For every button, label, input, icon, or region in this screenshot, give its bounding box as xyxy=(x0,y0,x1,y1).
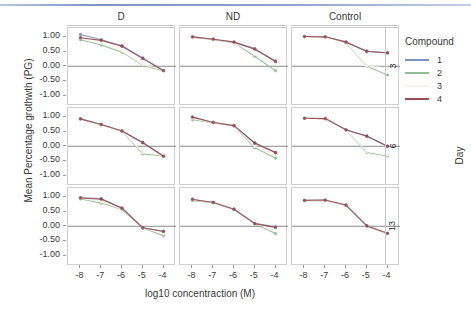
y-tick-label: 0.00 xyxy=(24,221,60,230)
x-tick-label: -5 xyxy=(135,271,149,280)
x-tick-mark xyxy=(163,265,164,268)
y-tick-mark xyxy=(63,145,66,146)
y-tick-mark xyxy=(63,211,66,212)
x-tick-mark xyxy=(254,265,255,268)
panel-d-day-6 xyxy=(67,107,175,185)
legend-item-2[interactable]: 2 xyxy=(405,66,471,79)
legend-label-3: 3 xyxy=(437,81,442,91)
legend: Compound 1234 xyxy=(405,36,471,105)
y-tick-mark xyxy=(63,95,66,96)
y-tick-mark xyxy=(63,65,66,66)
x-tick-mark xyxy=(121,265,122,268)
x-tick-label: -8 xyxy=(72,271,86,280)
x-tick-mark xyxy=(324,265,325,268)
x-tick-label: -7 xyxy=(205,271,219,280)
y-tick-mark xyxy=(63,36,66,37)
x-tick-label: -6 xyxy=(114,271,128,280)
panel-control-day-3 xyxy=(291,27,399,105)
y-axis-title: Mean Percentage grothwth (PG) xyxy=(23,41,34,221)
y-tick-mark xyxy=(63,131,66,132)
legend-label-4: 4 xyxy=(437,94,442,104)
legend-swatch-2 xyxy=(405,72,429,74)
x-tick-mark xyxy=(142,265,143,268)
x-tick-mark xyxy=(191,265,192,268)
row-rule-day-3 xyxy=(385,27,386,105)
x-tick-label: -8 xyxy=(184,271,198,280)
legend-item-1[interactable]: 1 xyxy=(405,53,471,66)
row-strip-day-3-label: 3 xyxy=(387,63,397,68)
y-tick-mark xyxy=(63,51,66,52)
legend-swatch-3 xyxy=(405,85,429,87)
column-strip-control: Control xyxy=(291,10,399,24)
y-tick-mark xyxy=(63,255,66,256)
x-tick-label: -6 xyxy=(338,271,352,280)
x-tick-mark xyxy=(387,265,388,268)
y-tick-label: 1.00 xyxy=(24,31,60,40)
x-tick-label: -4 xyxy=(380,271,394,280)
faceted-dose-response-chart: D ND Control 1.000.500.00-0.50-1.001.000… xyxy=(0,0,471,310)
row-group-title-text: Day xyxy=(454,147,465,165)
panel-control-day-6 xyxy=(291,107,399,185)
legend-swatch-4 xyxy=(405,98,429,100)
legend-items: 1234 xyxy=(405,53,471,105)
x-tick-label: -5 xyxy=(359,271,373,280)
row-strip-day-6-label: 6 xyxy=(387,143,397,148)
column-rule-d xyxy=(67,25,175,26)
legend-label-2: 2 xyxy=(437,68,442,78)
x-tick-label: -7 xyxy=(317,271,331,280)
x-tick-label: -4 xyxy=(268,271,282,280)
legend-title: Compound xyxy=(405,36,471,47)
row-strip-day-13-label: 13 xyxy=(387,221,397,231)
panel-d-day-3 xyxy=(67,27,175,105)
y-tick-mark xyxy=(63,175,66,176)
y-tick-mark xyxy=(63,240,66,241)
x-tick-mark xyxy=(275,265,276,268)
y-tick-mark xyxy=(63,196,66,197)
row-rule-day-13 xyxy=(385,187,386,265)
x-axis-title: log10 concentraction (M) xyxy=(0,288,400,299)
x-tick-mark xyxy=(345,265,346,268)
column-rule-nd xyxy=(179,25,287,26)
y-tick-mark xyxy=(63,225,66,226)
column-strip-nd: ND xyxy=(179,10,287,24)
column-rule-control xyxy=(291,25,399,26)
row-strip-day-3: 3 xyxy=(386,27,399,105)
row-rule-day-6 xyxy=(385,107,386,185)
x-tick-mark xyxy=(233,265,234,268)
y-tick-label: -0.50 xyxy=(24,235,60,244)
panel-nd-day-13 xyxy=(179,187,287,265)
x-tick-label: -5 xyxy=(247,271,261,280)
x-tick-label: -6 xyxy=(226,271,240,280)
x-tick-mark xyxy=(212,265,213,268)
row-strip-day-6: 6 xyxy=(386,107,399,185)
y-tick-mark xyxy=(63,80,66,81)
panel-control-day-13 xyxy=(291,187,399,265)
legend-item-3[interactable]: 3 xyxy=(405,79,471,92)
x-tick-mark xyxy=(100,265,101,268)
legend-label-1: 1 xyxy=(437,55,442,65)
y-tick-mark xyxy=(63,160,66,161)
column-strip-d: D xyxy=(67,10,175,24)
x-tick-mark xyxy=(366,265,367,268)
x-tick-mark xyxy=(79,265,80,268)
legend-swatch-1 xyxy=(405,59,429,61)
legend-item-4[interactable]: 4 xyxy=(405,92,471,105)
panel-d-day-13 xyxy=(67,187,175,265)
panel-nd-day-3 xyxy=(179,27,287,105)
x-tick-label: -7 xyxy=(93,271,107,280)
panel-nd-day-6 xyxy=(179,107,287,185)
row-strip-day-13: 13 xyxy=(386,187,399,265)
y-tick-label: -1.00 xyxy=(24,250,60,259)
y-tick-mark xyxy=(63,116,66,117)
x-tick-label: -8 xyxy=(296,271,310,280)
row-group-title: Day xyxy=(440,150,471,161)
x-tick-label: -4 xyxy=(156,271,170,280)
x-tick-mark xyxy=(303,265,304,268)
